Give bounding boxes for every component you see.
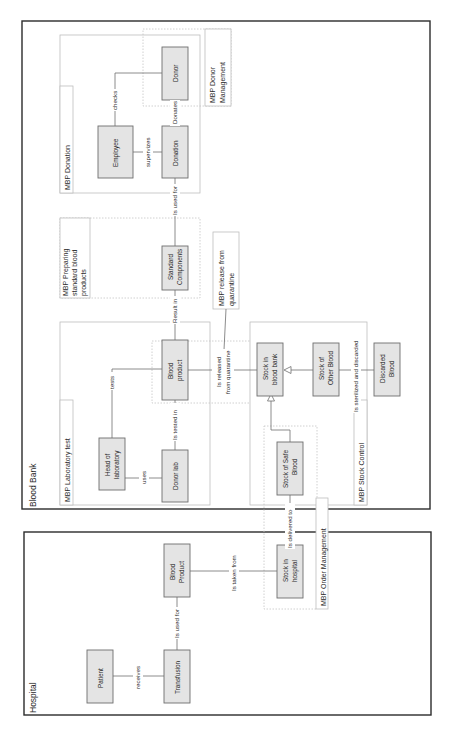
relation-label-is-used-for: Is used for — [170, 184, 180, 216]
relation-label-taken-from: Is taken from — [229, 550, 239, 592]
entity-stock-of-other-blood[interactable]: Stock of Other Blood — [313, 343, 339, 396]
entity-stock-of-safe-blood[interactable]: Stock of Safe Blood — [277, 442, 303, 495]
entity-stock-bank-label-1: Stock in — [262, 357, 269, 380]
svg-text:uses: uses — [140, 471, 147, 484]
entity-transfusion-label: Transfusion — [174, 660, 181, 694]
entity-stock-other-label-1: Stock of — [318, 357, 325, 380]
package-donor-management-label-1: MBP Donor — [209, 66, 216, 103]
svg-text:Donates: Donates — [171, 101, 178, 124]
entity-blood-product-bb-label-2: product — [176, 359, 184, 381]
svg-text:Is used for: Is used for — [171, 186, 178, 215]
entity-standard-components-label-2: Components — [176, 249, 184, 285]
relation-label-released: Is released from quarantine — [212, 349, 234, 395]
release-anchor-line — [224, 309, 226, 350]
svg-text:from quarantine: from quarantine — [224, 350, 231, 394]
svg-text:supervizes: supervizes — [144, 137, 151, 167]
svg-text:Is tested in: Is tested in — [171, 410, 178, 440]
entity-discarded-label-2: Blood — [388, 360, 395, 377]
entity-stock-hospital-label-1: Stock in — [282, 559, 289, 582]
package-donation-label: MBP Donation — [64, 145, 71, 190]
entity-head-lab-label-1: Head of — [104, 453, 111, 476]
entity-employee[interactable]: Employee — [98, 126, 133, 178]
entity-donor[interactable]: Donor — [162, 47, 188, 100]
entity-head-lab-label-2: laboratory — [113, 450, 121, 479]
entity-stock-in-hospital[interactable]: Stock in hospital — [277, 545, 303, 598]
entity-blood-product-hospital[interactable]: Blood Product — [164, 544, 190, 597]
svg-text:Result in: Result in — [171, 298, 178, 323]
entity-head-of-laboratory[interactable]: Head of laboratory — [99, 438, 125, 490]
relation-label-supervizes: supervizes — [143, 136, 153, 168]
package-donor-management-label-2: Management — [219, 62, 227, 103]
relation-label-is-tested-in: Is tested in — [170, 403, 180, 441]
svg-text:Is used for: Is used for — [173, 609, 180, 638]
svg-text:checks: checks — [111, 91, 118, 110]
package-preparing-label-2: standard blood — [71, 250, 78, 296]
svg-text:Is released: Is released — [215, 356, 222, 387]
entity-patient[interactable]: Patient — [87, 650, 113, 703]
entity-stock-safe-label-1: Stock of Safe — [282, 450, 289, 488]
package-release-quarantine-label-2: quarantine — [228, 273, 236, 306]
package-stock-control-label: MBP Stock Control — [358, 443, 365, 502]
svg-text:tests: tests — [108, 376, 115, 389]
svg-text:Is taken from: Is taken from — [230, 555, 237, 591]
diagram-svg: Blood Bank Hospital MBP Donation MBP Don… — [0, 0, 450, 730]
entity-standard-components[interactable]: Standard Components — [162, 246, 188, 290]
relation-label-tests: tests — [107, 372, 117, 390]
relation-label-delivered: Is delivered to — [285, 503, 295, 549]
relation-label-sterilized: Is sterilized and discarded — [351, 327, 361, 413]
frame-hospital-label: Hospital — [28, 682, 38, 713]
entity-stock-in-blood-bank[interactable]: Stock in blood bank — [257, 343, 283, 396]
entity-donation-label: Donation — [172, 140, 179, 166]
relation-label-checks: checks — [110, 89, 120, 111]
entity-stock-hospital-label-2: hospital — [291, 560, 299, 582]
relation-label-uses: uses — [139, 468, 149, 486]
relation-label-receives: receives — [133, 662, 143, 690]
frame-hospital — [24, 532, 431, 715]
svg-text:receives: receives — [134, 666, 141, 689]
entity-donor-label: Donor — [172, 64, 179, 82]
entity-donation[interactable]: Donation — [162, 126, 188, 178]
svg-text:Is delivered to: Is delivered to — [286, 509, 293, 548]
package-order-management-label: MBP Order Management — [320, 528, 328, 606]
entity-blood-product-h-label-2: Product — [178, 561, 185, 583]
entity-patient-label: Patient — [97, 668, 104, 688]
package-preparing-label-3: products — [80, 269, 88, 296]
entity-standard-components-label-1: Standard — [167, 254, 174, 280]
package-release-quarantine-label-1: MBP release from — [218, 250, 225, 306]
relation-label-donates: Donates — [170, 100, 180, 126]
package-preparing-label-1: MBP Preparing — [62, 249, 70, 296]
entity-stock-bank-label-2: blood bank — [271, 353, 278, 385]
entity-discarded-blood[interactable]: Discarded Blood — [374, 343, 400, 396]
entity-stock-safe-label-2: Blood — [291, 458, 298, 475]
entity-discarded-label-1: Discarded — [379, 354, 386, 383]
entity-transfusion[interactable]: Transfusion — [164, 650, 190, 703]
entity-blood-product-h-label-1: Blood — [169, 563, 176, 580]
entity-blood-product-bb-label-1: Blood — [167, 362, 174, 379]
frame-blood-bank-label: Blood Bank — [28, 463, 38, 507]
entity-blood-product-bb[interactable]: Blood product — [162, 340, 188, 400]
entity-donor-lab[interactable]: Donor lab — [162, 450, 188, 502]
package-laboratory-label: MBP Laboratory test — [64, 438, 72, 502]
diagram-canvas: Blood Bank Hospital MBP Donation MBP Don… — [0, 0, 450, 730]
relation-label-result-in: Result in — [170, 296, 180, 324]
entity-employee-label: Employee — [112, 138, 120, 167]
package-release-quarantine — [213, 232, 239, 309]
entity-donor-lab-label: Donor lab — [172, 462, 179, 490]
svg-text:Is sterilized and discarded: Is sterilized and discarded — [352, 340, 359, 412]
relation-label-is-used-for-h: Is used for — [172, 607, 182, 639]
entity-stock-other-label-2: Other Blood — [327, 350, 334, 385]
